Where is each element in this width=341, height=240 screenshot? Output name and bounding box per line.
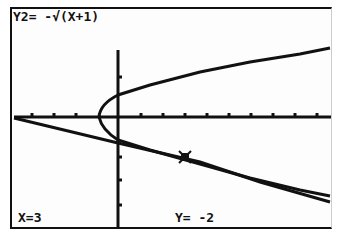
- graph-canvas: [0, 0, 341, 240]
- function-label: Y2= -√(X+1): [13, 9, 99, 24]
- linear-curve: [14, 118, 330, 202]
- trace-y-value: Y= -2: [175, 210, 214, 225]
- lower-branch-curve: [99, 117, 330, 196]
- upper-branch-curve: [99, 48, 330, 117]
- trace-x-value: X=3: [18, 210, 41, 225]
